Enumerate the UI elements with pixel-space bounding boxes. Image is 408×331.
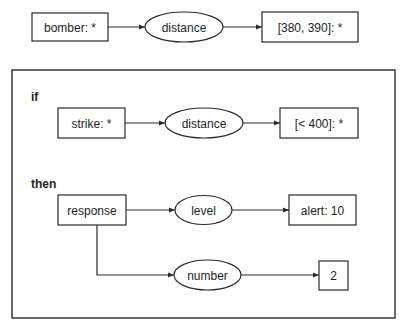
conceptual-graph-diagram: bomber: * distance [380, 390]: * if stri…	[0, 0, 408, 331]
relation-label-number: number	[187, 269, 228, 283]
arrow-response-to-number	[97, 225, 174, 275]
concept-label-response: response	[67, 204, 117, 218]
relation-label-distance-condition: distance	[182, 117, 227, 131]
concept-label-range: [380, 390]: *	[278, 21, 343, 35]
condition-graph: strike: * distance [< 400]: *	[58, 108, 358, 138]
relation-label-distance: distance	[162, 21, 207, 35]
concept-label-bomber: bomber: *	[44, 21, 96, 35]
concept-label-count: 2	[330, 269, 337, 283]
if-label: if	[31, 90, 39, 104]
relation-label-level: level	[191, 204, 216, 218]
concept-label-threshold: [< 400]: *	[295, 117, 344, 131]
concept-label-strike: strike: *	[71, 117, 111, 131]
fact-graph: bomber: * distance [380, 390]: *	[32, 12, 358, 42]
then-label: then	[31, 177, 56, 191]
concept-label-alert: alert: 10	[301, 204, 345, 218]
consequence-graph: response level alert: 10 number 2	[58, 195, 356, 290]
